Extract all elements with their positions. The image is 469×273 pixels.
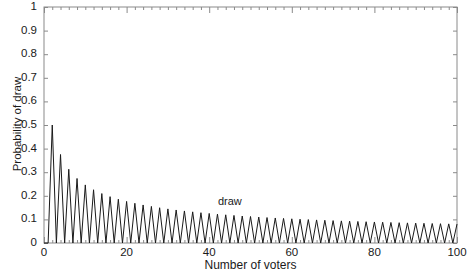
x-tick-label: 40 [184, 247, 234, 259]
figure-canvas: 00.10.20.30.40.50.60.70.80.91 0204060801… [0, 0, 469, 273]
x-tick-label: 60 [267, 247, 317, 259]
y-tick-label: 0.9 [0, 25, 37, 37]
y-tick-label: 1 [0, 1, 37, 13]
x-tick-label: 100 [432, 247, 469, 259]
y-tick-label: 0.1 [0, 213, 37, 225]
x-tick-label: 80 [349, 247, 399, 259]
x-tick-label: 20 [102, 247, 152, 259]
x-tick-label: 0 [19, 247, 69, 259]
series-annotation-draw: draw [200, 195, 260, 207]
x-axis-title: Number of voters [44, 258, 457, 272]
plot-area [0, 0, 469, 273]
y-axis-title: Probability of draw [11, 54, 23, 194]
axes-box [44, 7, 457, 243]
